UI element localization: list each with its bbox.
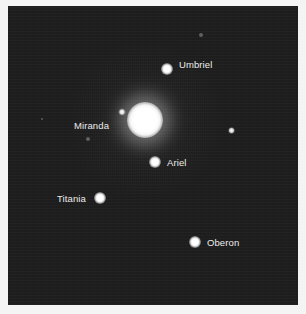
photograph-frame: Umbriel Miranda Ariel Titania Oberon <box>8 6 298 305</box>
moon-ariel <box>149 156 161 168</box>
background-star <box>199 33 203 37</box>
moon-titania <box>94 192 106 204</box>
label-titania: Titania <box>57 193 86 204</box>
moon-oberon <box>189 236 201 248</box>
background-star <box>228 127 235 134</box>
label-oberon: Oberon <box>207 237 239 248</box>
background-star <box>86 137 90 141</box>
uranus-planet <box>127 102 163 138</box>
label-miranda: Miranda <box>74 120 109 131</box>
background-star <box>41 118 43 120</box>
moon-umbriel <box>161 63 173 75</box>
moon-miranda <box>118 108 126 116</box>
label-umbriel: Umbriel <box>179 59 212 70</box>
label-ariel: Ariel <box>167 157 187 168</box>
